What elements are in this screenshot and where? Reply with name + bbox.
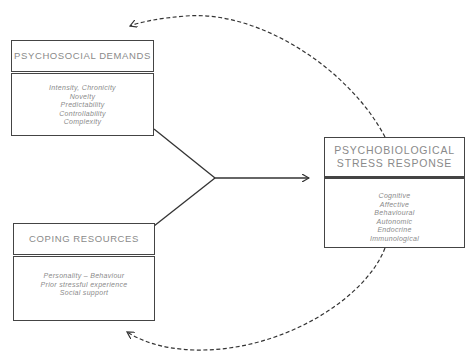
feedback-arrow-top <box>130 16 385 137</box>
demands-item: Controllability <box>59 110 106 119</box>
feedback-arrow-bottom <box>127 248 385 350</box>
response-header-box: PSYCHOBIOLOGICAL STRESS RESPONSE <box>324 137 465 177</box>
response-item: Autonomic <box>377 218 413 227</box>
response-item: Behavioural <box>374 209 414 218</box>
response-title-line2: STRESS RESPONSE <box>337 157 452 170</box>
demands-item: Novelty <box>70 93 95 102</box>
response-item: Endocrine <box>377 226 411 235</box>
response-item: Cognitive <box>379 192 411 201</box>
response-body-box: Cognitive Affective Behavioural Autonomi… <box>324 176 465 248</box>
demands-title: PSYCHOSOCIAL DEMANDS <box>14 50 151 62</box>
response-item: Affective <box>380 201 410 210</box>
coping-item: Social support <box>60 289 109 298</box>
response-item: Immunological <box>370 235 419 244</box>
coping-header-box: COPING RESOURCES <box>13 223 155 255</box>
demands-header-box: PSYCHOSOCIAL DEMANDS <box>11 40 154 72</box>
coping-item: Personality – Behaviour <box>44 272 125 281</box>
demands-item: Intensity, Chronicity <box>49 84 116 93</box>
demands-body-box: Intensity, Chronicity Novelty Predictabi… <box>11 73 154 136</box>
coping-item: Prior stressful experience <box>41 281 128 290</box>
coping-body-box: Personality – Behaviour Prior stressful … <box>13 256 155 321</box>
demands-item: Predictability <box>61 101 105 110</box>
demands-connector <box>154 129 215 178</box>
response-title-line1: PSYCHOBIOLOGICAL <box>334 144 455 157</box>
demands-item: Complexity <box>64 118 102 127</box>
coping-connector <box>154 178 215 226</box>
coping-title: COPING RESOURCES <box>29 233 139 245</box>
